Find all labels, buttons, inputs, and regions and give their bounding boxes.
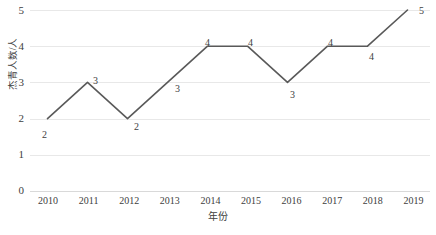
- x-tick-label: 2017: [309, 195, 355, 206]
- y-tick-label: 4: [0, 41, 24, 52]
- y-tick-label: 2: [0, 113, 24, 124]
- x-tick-label: 2012: [106, 195, 152, 206]
- gridline-2: [30, 119, 430, 120]
- x-tick-label: 2019: [390, 195, 436, 206]
- x-tick-label: 2016: [269, 195, 315, 206]
- y-tick-label: 1: [0, 149, 24, 160]
- data-label: 4: [369, 52, 374, 62]
- x-tick-label: 2011: [66, 195, 112, 206]
- data-label: 3: [175, 84, 180, 94]
- data-label: 3: [93, 76, 98, 86]
- x-tick-label: 2015: [228, 195, 274, 206]
- data-label: 4: [328, 38, 333, 48]
- data-label: 2: [42, 130, 47, 140]
- data-label: 4: [205, 38, 210, 48]
- gridline-3: [30, 82, 430, 83]
- plot-area: [30, 10, 430, 191]
- data-label: 2: [134, 122, 139, 132]
- gridline-5: [30, 10, 430, 11]
- gridline-0: [30, 191, 430, 192]
- y-tick-label: 5: [0, 5, 24, 16]
- gridline-1: [30, 155, 430, 156]
- gridline-4: [30, 46, 430, 47]
- y-tick-label: 0: [0, 185, 24, 196]
- data-label: 3: [290, 90, 295, 100]
- y-tick-label: 3: [0, 77, 24, 88]
- x-tick-label: 2013: [147, 195, 193, 206]
- line-chart: 杰青人数/人 0 1 2 3 4 5 2010 2011 2012 2013 2…: [0, 0, 436, 235]
- data-label: 4: [248, 38, 253, 48]
- data-label: 5: [419, 6, 424, 16]
- y-axis-title: 杰青人数/人: [6, 20, 20, 108]
- x-axis-title: 年份: [0, 211, 436, 223]
- x-tick-label: 2018: [350, 195, 396, 206]
- x-tick-label: 2010: [25, 195, 71, 206]
- x-tick-label: 2014: [187, 195, 233, 206]
